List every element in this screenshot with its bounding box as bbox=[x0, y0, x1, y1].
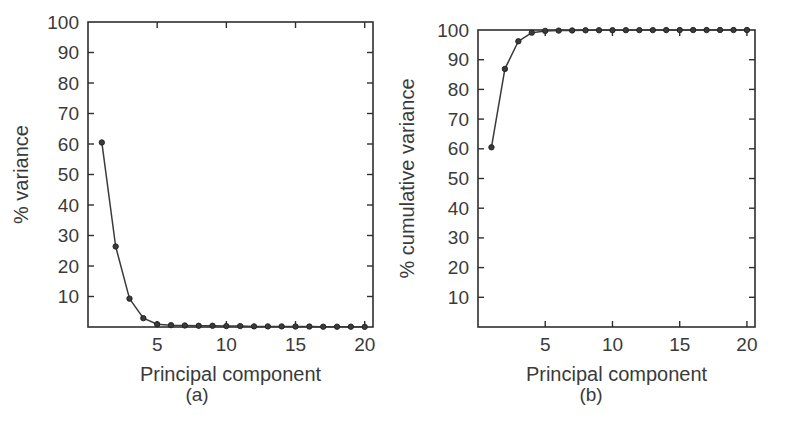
y-tick-label: 40 bbox=[448, 198, 469, 219]
data-point-marker bbox=[731, 27, 736, 32]
data-point-marker bbox=[583, 28, 588, 33]
data-point-marker bbox=[502, 66, 507, 71]
data-point-marker bbox=[489, 145, 494, 150]
y-tick-label: 80 bbox=[448, 79, 469, 100]
data-point-marker bbox=[279, 324, 284, 329]
y-axis-title: % cumulative variance bbox=[396, 78, 418, 278]
data-point-marker bbox=[516, 39, 521, 44]
data-point-marker bbox=[744, 27, 749, 32]
plot-box bbox=[478, 30, 755, 327]
data-point-marker bbox=[556, 28, 561, 33]
y-tick-label: 50 bbox=[58, 164, 79, 185]
data-point-marker bbox=[224, 323, 229, 328]
data-point-marker bbox=[127, 296, 132, 301]
data-point-marker bbox=[543, 28, 548, 33]
y-tick-label: 90 bbox=[448, 49, 469, 70]
data-point-marker bbox=[265, 324, 270, 329]
data-point-marker bbox=[529, 30, 534, 35]
data-point-marker bbox=[293, 324, 298, 329]
chart-panel-b: 1020304050607080901005101520Principal co… bbox=[394, 0, 788, 439]
x-tick-label: 5 bbox=[152, 334, 163, 355]
data-point-marker bbox=[677, 27, 682, 32]
data-point-marker bbox=[307, 324, 312, 329]
y-tick-label: 60 bbox=[448, 138, 469, 159]
data-point-marker bbox=[664, 27, 669, 32]
y-axis-title: % variance bbox=[10, 125, 32, 224]
y-tick-label: 70 bbox=[58, 103, 79, 124]
x-tick-label: 20 bbox=[354, 334, 375, 355]
y-tick-label: 20 bbox=[448, 257, 469, 278]
data-point-marker bbox=[690, 27, 695, 32]
y-tick-label: 10 bbox=[58, 286, 79, 307]
data-point-marker bbox=[154, 322, 159, 327]
panel-subcaption-b: (b) bbox=[394, 384, 788, 406]
chart-svg-b: 1020304050607080901005101520Principal co… bbox=[394, 0, 788, 400]
data-point-marker bbox=[334, 324, 339, 329]
y-tick-label: 30 bbox=[448, 227, 469, 248]
series-line bbox=[491, 30, 746, 147]
y-tick-label: 60 bbox=[58, 134, 79, 155]
y-tick-label: 50 bbox=[448, 168, 469, 189]
data-point-marker bbox=[596, 28, 601, 33]
data-point-marker bbox=[168, 322, 173, 327]
x-tick-label: 5 bbox=[540, 334, 551, 355]
data-point-marker bbox=[348, 324, 353, 329]
y-tick-label: 30 bbox=[58, 225, 79, 246]
series-line bbox=[102, 142, 365, 326]
figure-scree-plots: 1020304050607080901005101520Principal co… bbox=[0, 0, 788, 439]
chart-svg-a: 1020304050607080901005101520Principal co… bbox=[0, 0, 394, 400]
chart-panel-a: 1020304050607080901005101520Principal co… bbox=[0, 0, 394, 439]
data-point-marker bbox=[320, 324, 325, 329]
data-point-marker bbox=[99, 140, 104, 145]
data-point-marker bbox=[610, 27, 615, 32]
data-point-marker bbox=[113, 244, 118, 249]
panel-subcaption-a: (a) bbox=[0, 384, 394, 406]
y-tick-label: 100 bbox=[437, 20, 469, 41]
data-point-marker bbox=[704, 27, 709, 32]
data-point-marker bbox=[637, 27, 642, 32]
data-point-marker bbox=[196, 323, 201, 328]
data-point-marker bbox=[210, 323, 215, 328]
y-tick-label: 70 bbox=[448, 109, 469, 130]
y-tick-label: 20 bbox=[58, 256, 79, 277]
x-tick-label: 10 bbox=[602, 334, 623, 355]
x-axis-title: Principal component bbox=[140, 363, 322, 385]
x-tick-label: 15 bbox=[669, 334, 690, 355]
data-point-marker bbox=[717, 27, 722, 32]
x-tick-label: 15 bbox=[285, 334, 306, 355]
data-point-marker bbox=[251, 324, 256, 329]
data-point-marker bbox=[141, 315, 146, 320]
x-tick-label: 10 bbox=[216, 334, 237, 355]
data-point-marker bbox=[182, 323, 187, 328]
y-tick-label: 80 bbox=[58, 73, 79, 94]
x-axis-title: Principal component bbox=[526, 363, 708, 385]
data-point-marker bbox=[237, 323, 242, 328]
y-tick-label: 100 bbox=[47, 12, 79, 33]
data-point-marker bbox=[623, 27, 628, 32]
plot-box bbox=[88, 22, 373, 327]
y-tick-label: 90 bbox=[58, 42, 79, 63]
data-point-marker bbox=[569, 28, 574, 33]
y-tick-label: 10 bbox=[448, 287, 469, 308]
x-tick-label: 20 bbox=[736, 334, 757, 355]
y-tick-label: 40 bbox=[58, 195, 79, 216]
data-point-marker bbox=[650, 27, 655, 32]
data-point-marker bbox=[362, 324, 367, 329]
